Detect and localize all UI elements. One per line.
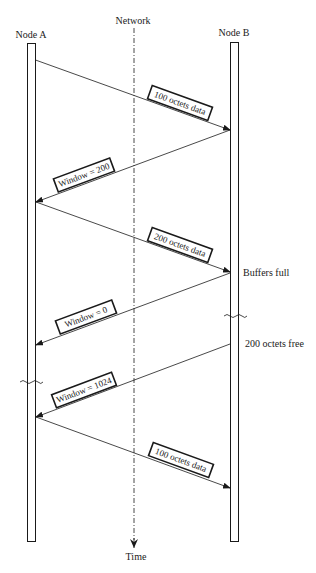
message-arrow-1: [36, 60, 231, 130]
message-arrow-6: [36, 417, 230, 488]
node-a-lifeline: [28, 44, 36, 542]
message-label-box-4: Window = 0: [55, 300, 116, 334]
sequence-diagram: Node A Node B Network Time 100 octets da…: [0, 0, 316, 573]
message-arrow-3: [36, 202, 230, 272]
time-label: Time: [126, 551, 147, 562]
network-label: Network: [116, 15, 151, 26]
message-label-box-1: 100 octets data: [148, 86, 213, 121]
message-label-box-2: Window = 200: [53, 158, 114, 192]
message-arrow-2: [36, 130, 230, 202]
message-arrow-5: [36, 344, 230, 417]
node-a-label: Node A: [16, 29, 48, 40]
message-label-box-3: 200 octets data: [148, 228, 213, 263]
node-b-lifeline: [231, 43, 239, 542]
octets-free-annotation: 200 octets free: [245, 338, 304, 349]
node-b-label: Node B: [219, 27, 250, 38]
buffers-full-annotation: Buffers full: [243, 267, 289, 278]
message-arrow-4: [36, 273, 230, 345]
message-label-box-6: 100 octets data: [149, 442, 214, 477]
